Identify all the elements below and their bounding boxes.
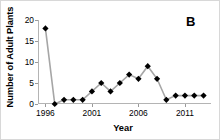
data-point-marker	[182, 93, 188, 99]
data-point-marker	[173, 93, 179, 99]
data-point-marker	[70, 97, 76, 103]
data-point-marker	[163, 97, 169, 103]
series-line	[45, 28, 203, 104]
data-point-marker	[191, 93, 197, 99]
y-tick-label: 15	[25, 37, 34, 45]
x-tick-mark	[92, 104, 93, 107]
plot-area: 05101520 1996200120062011	[38, 20, 211, 104]
x-tick-label: 2006	[129, 109, 148, 118]
x-axis-title: Year	[35, 123, 211, 133]
data-point-marker	[42, 25, 48, 31]
x-tick-mark	[138, 104, 139, 107]
y-tick-label: 0	[29, 100, 34, 108]
x-tick-mark	[185, 104, 186, 107]
y-tick-label: 10	[25, 58, 34, 66]
series-layer	[38, 20, 211, 104]
y-tick-label: 20	[25, 16, 34, 24]
data-point-marker	[52, 101, 58, 107]
data-point-marker	[61, 97, 67, 103]
data-point-marker	[200, 93, 206, 99]
x-tick-mark	[45, 104, 46, 107]
y-tick-mark	[35, 104, 38, 105]
x-tick-label: 1996	[36, 109, 55, 118]
x-tick-label: 2001	[83, 109, 102, 118]
x-tick-label: 2011	[176, 109, 194, 118]
y-axis-title: Number of Adult Plants	[3, 3, 17, 111]
chart-figure: Number of Adult Plants Year B 05101520 1…	[0, 0, 220, 140]
y-tick-label: 5	[29, 79, 34, 87]
